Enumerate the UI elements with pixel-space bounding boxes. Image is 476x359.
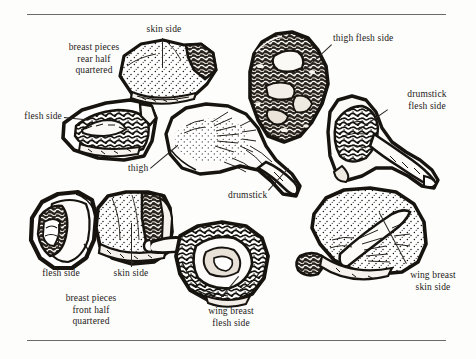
specimen-wing-breast-skin-side [296, 188, 426, 279]
leader-wing-breast-skin-side [379, 212, 407, 264]
label-skin-side-bottom: skin side [102, 268, 160, 280]
leader-drumstick [268, 168, 289, 191]
leader-skin-side-bottom [131, 223, 132, 267]
specimen-wing-breast-flesh-side [144, 222, 268, 307]
specimen-breast-front-skin-side [96, 192, 172, 264]
leader-flesh-side-left [64, 117, 86, 120]
label-drumstick-flesh-side: drumstick flesh side [391, 89, 463, 112]
label-thigh: thigh [128, 163, 168, 175]
label-flesh-side-left: flesh side [4, 111, 62, 123]
label-thigh-flesh-side: thigh flesh side [333, 33, 427, 45]
leader-skin-side-top [162, 38, 163, 68]
label-wing-breast-flesh-side: wing breast flesh side [188, 306, 274, 329]
label-breast-pieces-front-half-quartered: breast pieces front half quartered [42, 293, 140, 328]
top-rule [27, 14, 446, 15]
specimen-breast-rear-flesh-side [63, 100, 156, 160]
leader-flesh-side-bottom [58, 224, 59, 248]
label-flesh-side-bottom: flesh side [32, 268, 90, 280]
label-breast-pieces-rear-half-quartered: breast pieces rear half quartered [47, 42, 141, 77]
specimen-thigh [166, 104, 300, 196]
label-skin-side-top: skin side [131, 24, 197, 36]
leader-drumstick-flesh-side [358, 109, 388, 130]
label-drumstick: drumstick [228, 190, 284, 202]
leader-thigh-flesh-side [305, 44, 332, 69]
illustration-plate: skin side breast pieces rear half quarte… [0, 0, 476, 359]
label-wing-breast-skin-side: wing breast skin side [390, 270, 476, 293]
specimen-breast-front-flesh-side [31, 192, 96, 268]
bottom-rule [27, 340, 446, 341]
specimen-thigh-flesh-side [250, 32, 328, 142]
leader-wing-breast-flesh-side [219, 276, 239, 300]
